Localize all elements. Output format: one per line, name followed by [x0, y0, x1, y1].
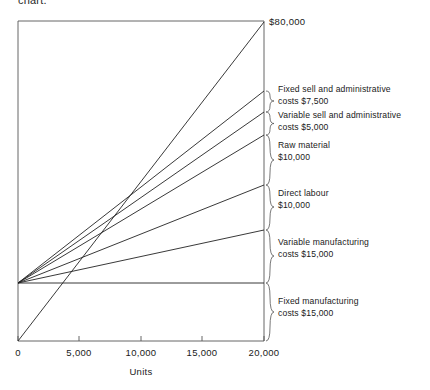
- brace-raw-material: [266, 135, 274, 185]
- label-fixed-sell-admin-line1: Fixed sell and administrative: [278, 84, 391, 94]
- x-tick-label-0: 0: [15, 347, 21, 358]
- label-variable-sell-admin-line2: costs $5,000: [278, 122, 329, 132]
- label-direct-labour-line1: Direct labour: [278, 188, 329, 198]
- x-axis-title: Units: [129, 366, 152, 377]
- label-fixed-manufacturing-line2: costs $15,000: [278, 308, 334, 318]
- label-raw-material-line2: $10,000: [278, 152, 310, 162]
- cost-volume-profit-chart: chart. 0 5,000 10,000 15,000 20,000 Unit…: [0, 0, 430, 390]
- label-fixed-sell-admin-line2: costs $7,500: [278, 96, 329, 106]
- x-tick-label-5000: 5,000: [66, 347, 91, 358]
- brace-variable-manufacturing: [266, 230, 274, 283]
- brace-direct-labour: [266, 185, 274, 230]
- label-variable-manufacturing-line2: costs $15,000: [278, 249, 334, 259]
- x-axis-ticks: [18, 336, 264, 341]
- label-variable-manufacturing-line1: Variable manufacturing: [278, 237, 369, 247]
- cost-line-fan: [18, 91, 264, 283]
- brace-variable-sell-admin: [266, 112, 274, 135]
- line-total-cost-top: [18, 91, 264, 283]
- label-raw-material-line1: Raw material: [278, 140, 330, 150]
- peak-value-label: $80,000: [269, 16, 305, 27]
- label-fixed-manufacturing-line1: Fixed manufacturing: [278, 296, 359, 306]
- label-variable-sell-admin-line1: Variable sell and administrative: [278, 110, 401, 120]
- x-axis-tick-labels: 0 5,000 10,000 15,000 20,000: [15, 347, 279, 358]
- chart-canvas: 0 5,000 10,000 15,000 20,000 Units $80,0…: [0, 0, 430, 390]
- cost-band-braces: [266, 91, 274, 341]
- line-below-variable-sell-admin: [18, 135, 264, 283]
- brace-fixed-manufacturing: [266, 283, 274, 341]
- brace-fixed-sell-admin: [266, 91, 274, 112]
- line-sales-revenue: [18, 22, 264, 341]
- label-direct-labour-line2: $10,000: [278, 200, 310, 210]
- line-below-direct-labour: [18, 230, 264, 283]
- x-tick-label-10000: 10,000: [126, 347, 157, 358]
- line-below-fixed-sell-admin: [18, 112, 264, 283]
- x-tick-label-20000: 20,000: [249, 347, 280, 358]
- cost-band-labels: Fixed sell and administrative costs $7,5…: [278, 84, 401, 318]
- x-tick-label-15000: 15,000: [187, 347, 218, 358]
- line-below-raw-material: [18, 185, 264, 283]
